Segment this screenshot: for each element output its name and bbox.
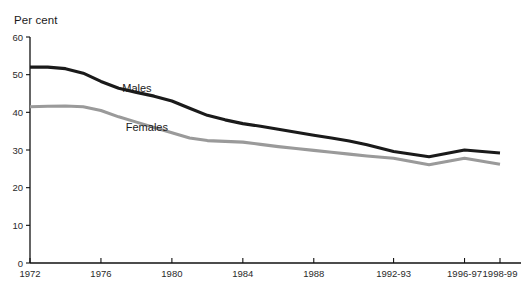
y-tick-label: 20 <box>12 182 23 193</box>
x-tick-label: 1992-93 <box>376 268 411 279</box>
series-labels: MalesFemales <box>122 82 168 134</box>
series-line-males <box>30 67 500 157</box>
series-label-males: Males <box>122 82 152 94</box>
series-label-females: Females <box>126 121 169 133</box>
y-tick-label: 50 <box>12 69 23 80</box>
y-tick-label: 0 <box>18 258 23 269</box>
x-tick-label: 1998-99 <box>483 268 518 279</box>
x-tick-label: 1980 <box>161 268 182 279</box>
x-axis: 197219761980198419881992-931996-971998-9… <box>19 258 521 279</box>
y-tick-label: 40 <box>12 107 23 118</box>
y-tick-label: 60 <box>12 32 23 43</box>
y-tick-label: 10 <box>12 220 23 231</box>
line-chart: Per cent 0102030405060 19721976198019841… <box>0 0 525 292</box>
x-tick-label: 1988 <box>303 268 324 279</box>
x-tick-label: 1984 <box>232 268 253 279</box>
x-tick-label: 1972 <box>19 268 40 279</box>
y-tick-label: 30 <box>12 145 23 156</box>
y-axis: 0102030405060 <box>12 32 30 269</box>
series-layer <box>30 67 500 165</box>
chart-plot-area: 0102030405060 197219761980198419881992-9… <box>0 0 525 292</box>
x-tick-label: 1976 <box>90 268 111 279</box>
x-tick-label: 1996-97 <box>447 268 482 279</box>
